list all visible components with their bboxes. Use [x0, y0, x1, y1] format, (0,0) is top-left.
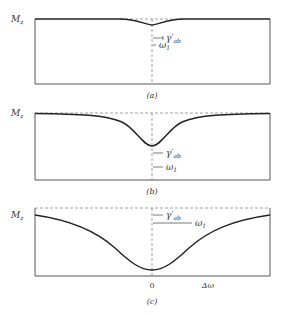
panel-b-omega-label: ω1 [166, 162, 177, 173]
panel-b-y-label: Mz [10, 108, 24, 119]
panel-c-gamma-label: γ′ab [166, 210, 181, 221]
panel-c-omega-label: ω1 [195, 218, 206, 229]
panel-b: γ′ab ω1 Mz (b) [10, 108, 270, 196]
panel-c-y-label: Mz [10, 210, 24, 221]
panel-a-caption: (a) [146, 91, 157, 100]
panel-b-gamma-label: γ′ab [166, 148, 181, 159]
saturation-diagram: γ′ab ω1 Mz (a) γ′ab ω1 Mz (b) γ′ab ω1 Mz… [0, 0, 282, 317]
x-axis-label: Δω [201, 281, 215, 290]
panel-b-caption: (b) [146, 187, 157, 196]
panel-c-curve [35, 215, 270, 270]
panel-c: γ′ab ω1 Mz 0 Δω (c) [10, 208, 270, 306]
panel-a-gamma-label: γ′ab [166, 33, 181, 44]
panel-a: γ′ab ω1 Mz (a) [10, 14, 270, 100]
panel-a-curve [35, 19, 270, 25]
center-tick-label: 0 [149, 281, 154, 290]
panel-c-caption: (c) [147, 297, 158, 306]
panel-b-curve [35, 114, 270, 147]
panel-a-y-label: Mz [10, 14, 24, 25]
